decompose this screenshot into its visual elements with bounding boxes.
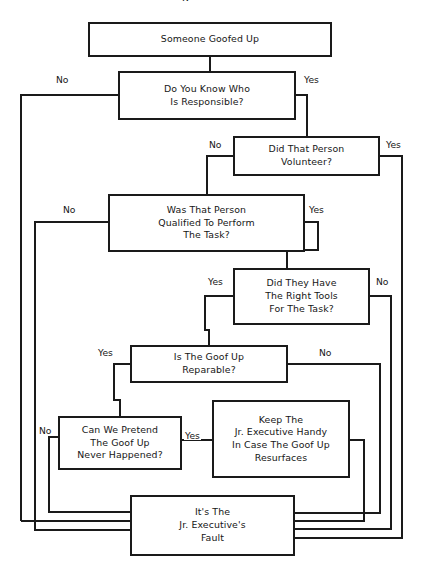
node-is-the-goof-up-reparable[interactable]: Is The Goof Up Reparable? [130, 345, 288, 383]
node-do-you-know-who-is-responsible[interactable]: Do You Know Who Is Responsible? [118, 71, 296, 120]
edge-label-pretend-no: No [38, 426, 53, 435]
cropped-title-descender: g [182, 0, 200, 1]
edge-label-pretend-yes: Yes [184, 431, 201, 440]
node-can-we-pretend-never-happened[interactable]: Can We Pretend The Goof Up Never Happene… [58, 416, 182, 470]
edge-label-qualified-yes: Yes [308, 205, 325, 214]
edge-label-know-who-no: No [55, 75, 70, 84]
node-did-that-person-volunteer[interactable]: Did That Person Volunteer? [233, 136, 380, 176]
node-did-they-have-the-right-tools[interactable]: Did They Have The Right Tools For The Ta… [233, 268, 370, 325]
edge-label-reparable-no: No [318, 348, 333, 357]
edge-label-tools-no: No [375, 277, 390, 286]
node-keep-the-jr-executive-handy[interactable]: Keep The Jr. Executive Handy In Case The… [212, 400, 350, 478]
edge-label-volunteer-no: No [208, 140, 223, 149]
node-its-the-jr-executives-fault[interactable]: It's The Jr. Executive's Fault [130, 495, 295, 556]
edge-label-know-who-yes: Yes [303, 75, 320, 84]
flowchart-canvas: g [0, 0, 421, 584]
edge-label-reparable-yes: Yes [97, 348, 114, 357]
node-someone-goofed-up[interactable]: Someone Goofed Up [88, 22, 332, 57]
node-was-that-person-qualified[interactable]: Was That Person Qualified To Perform The… [108, 194, 305, 252]
edge-label-tools-yes: Yes [207, 277, 224, 286]
edge-label-volunteer-yes: Yes [385, 140, 402, 149]
edge-label-qualified-no: No [62, 205, 77, 214]
